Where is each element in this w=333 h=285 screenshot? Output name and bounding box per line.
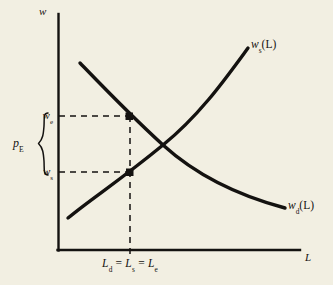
x-tick-term-equilibrium: Le [148,257,158,269]
y-axis-label: w [39,6,46,17]
supply-curve [68,48,248,218]
guide-lines-group [59,116,130,249]
x-tick-term-demand-main: L [102,257,109,269]
supply-curve-label-main: w [251,38,259,50]
supply-curve-label-arg: (L) [262,38,277,50]
x-tick-label-equilibrium: Ld = Ls = Le [102,258,158,270]
wedge-bracket-label-sub: E [19,145,24,154]
y-tick-label-we: we [43,110,53,121]
x-tick-term-supply: Ls [125,257,135,269]
demand-curve-label: wd(L) [288,200,314,212]
supply-curve-label: ws(L) [251,39,276,51]
supply-demand-diagram: w L ws(L) wd(L) we ws pE Ld = Ls = Le [0,0,333,285]
x-tick-separator-2: = [138,257,145,269]
supply-point-marker [126,169,134,177]
x-tick-separator-1: = [116,257,123,269]
y-tick-label-ws: ws [43,166,53,177]
demand-curve-label-main: w [288,199,296,211]
wedge-bracket-label: pE [13,137,24,149]
x-tick-term-equilibrium-sub: e [155,265,158,274]
x-axis-label: L [305,252,311,263]
diagram-canvas [0,0,333,285]
x-tick-term-supply-sub: s [132,265,135,274]
supply-curve-label-sub: s [259,46,262,55]
marker-points-group [126,113,134,177]
demand-curve-label-arg: (L) [299,199,314,211]
demand-curve-label-sub: d [296,207,300,216]
y-tick-ws-sub: s [50,174,53,182]
x-tick-term-demand-sub: d [109,265,113,274]
demand-point-marker [126,113,134,121]
x-tick-term-demand: Ld [102,257,113,269]
x-tick-term-supply-main: L [125,257,132,269]
